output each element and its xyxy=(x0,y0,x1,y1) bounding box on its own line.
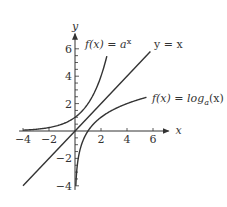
function-graph: −4−2246−4−2246xyf(x) = axy = xf(x) = log… xyxy=(0,0,227,207)
x-tick-label: 6 xyxy=(150,133,157,146)
x-tick-label: −2 xyxy=(41,133,57,146)
y-tick-label: 6 xyxy=(65,43,72,56)
x-tick-label: −4 xyxy=(15,133,31,146)
y-tick-label: −2 xyxy=(56,152,72,165)
x-axis-label: x xyxy=(176,124,183,137)
curves xyxy=(23,52,150,186)
y-tick-label: 4 xyxy=(65,70,72,83)
y-tick-label: −4 xyxy=(56,180,72,193)
log-curve xyxy=(76,97,147,185)
log-label: f(x) = loga(x) xyxy=(151,92,224,107)
x-tick-label: 4 xyxy=(124,133,131,146)
identity-label: y = x xyxy=(153,38,183,51)
exp-label: f(x) = ax xyxy=(84,37,132,51)
x-tick-label: 2 xyxy=(98,133,105,146)
y-tick-label: 2 xyxy=(65,98,72,111)
exp-curve xyxy=(23,56,107,130)
identity-line xyxy=(23,52,150,186)
y-axis-label: y xyxy=(71,20,79,33)
